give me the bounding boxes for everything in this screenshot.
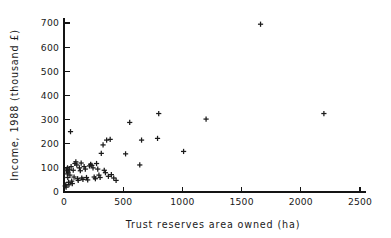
x-tick-label: 1500 (230, 196, 254, 207)
y-tick-label: 200 (41, 138, 59, 149)
data-point (137, 162, 142, 167)
x-tick-label: 2500 (348, 196, 372, 207)
data-point (127, 120, 132, 125)
data-point (139, 137, 144, 142)
x-tick-label: 2000 (289, 196, 313, 207)
y-tick-label: 100 (41, 162, 59, 173)
x-tick-label: 1000 (170, 196, 194, 207)
scatter-plot-figure: 0100200300400500600700 05001000150020002… (0, 0, 391, 238)
data-point (155, 136, 160, 141)
data-point (68, 129, 73, 134)
data-point (123, 151, 128, 156)
data-point-markers (63, 22, 327, 190)
data-point (104, 137, 109, 142)
y-axis-title: Income, 1988 (thousand £) (9, 29, 20, 181)
data-point (321, 111, 326, 116)
y-tick-label: 500 (41, 66, 59, 77)
data-point (78, 168, 83, 173)
x-tick-label: 0 (61, 196, 67, 207)
y-tick-label: 0 (53, 186, 59, 197)
data-point (203, 116, 208, 121)
data-point (181, 149, 186, 154)
x-axis-title: Trust reserves area owned (ha) (125, 219, 301, 230)
x-axis-ticks: 05001000150020002500 (61, 187, 372, 208)
y-tick-label: 400 (41, 90, 59, 101)
y-tick-label: 600 (41, 42, 59, 53)
data-point (95, 166, 100, 171)
data-point (99, 151, 104, 156)
data-point (258, 22, 263, 27)
data-point (94, 161, 99, 166)
data-point (156, 111, 161, 116)
data-point (100, 142, 105, 147)
data-point (77, 165, 82, 170)
x-tick-label: 500 (114, 196, 132, 207)
data-point (108, 137, 113, 142)
y-tick-label: 300 (41, 114, 59, 125)
chart-canvas: 0100200300400500600700 05001000150020002… (0, 0, 391, 238)
y-tick-label: 700 (41, 17, 59, 28)
